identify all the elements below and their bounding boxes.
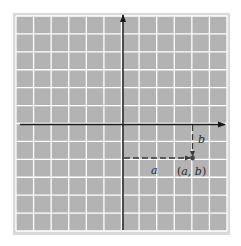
point-label-sep: , [188,165,195,178]
label-b-distance: b [198,134,205,145]
coordinate-plane-diagram [0,0,241,246]
label-a-distance: a [151,165,158,176]
point-label: (a, b) [177,166,206,177]
point-label-b: b [195,165,202,178]
point-label-close: ) [202,165,206,178]
point-a-b [190,156,195,161]
